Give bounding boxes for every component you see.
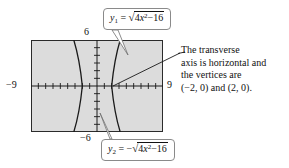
y-max-label: 6: [84, 27, 89, 37]
x-min-label: −9: [6, 80, 17, 90]
callout-y1-subscript: 1: [114, 17, 118, 25]
callout-y1-equals: =: [120, 12, 126, 23]
callout-y1-radicand: 4x2−16: [134, 11, 165, 23]
y-min-label: −6: [80, 133, 91, 143]
callout-y2-constant: −16: [151, 143, 167, 154]
x-max-label: 9: [167, 80, 172, 90]
note-line-2: axis is horizontal and: [181, 57, 287, 70]
transverse-axis-note: The transverse axis is horizontal and th…: [181, 44, 287, 94]
hyperbola-plot: [31, 40, 163, 132]
callout-y2-subscript: 2: [112, 148, 116, 156]
callout-y2: y2 = −√4x2−16: [101, 139, 175, 161]
figure-canvas: 6 −6 −9 9 y1 = √4x2−16 y2 = −√4x2−16 The…: [0, 0, 289, 168]
graphing-calculator-screen: [31, 40, 163, 132]
note-line-4: (−2, 0) and (2, 0).: [181, 82, 287, 95]
callout-y1-constant: −16: [148, 12, 164, 23]
callout-y2-equals: =: [118, 143, 124, 154]
callout-y1: y1 = √4x2−16: [103, 8, 171, 30]
callout-y2-radicand: 4x2−16: [137, 142, 168, 154]
note-line-1: The transverse: [181, 44, 287, 57]
note-line-3: the vertices are: [181, 69, 287, 82]
